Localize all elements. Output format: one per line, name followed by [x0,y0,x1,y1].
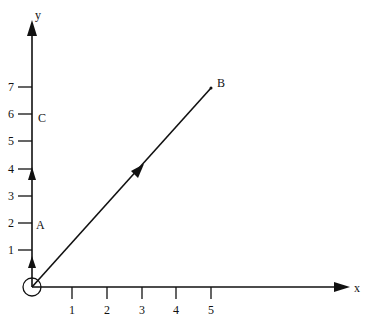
y-tick-label: 7 [8,80,14,94]
x-ticks [72,287,211,299]
coordinate-diagram: x y 1 2 3 4 5 1 2 3 4 5 6 7 B C A [0,0,367,330]
x-tick-label: 3 [139,303,145,317]
x-tick-label: 1 [69,303,75,317]
x-axis-label: x [354,281,360,295]
y-tick-label: 2 [8,216,14,230]
vector-OB [32,88,211,287]
y-axis-label: y [35,8,41,22]
y-tick-label: 4 [8,162,14,176]
point-A-label: A [36,218,45,232]
y-tick-label: 3 [8,189,14,203]
y-tick-label: 5 [8,134,14,148]
y-ticks [18,87,32,250]
x-tick-label: 2 [104,303,110,317]
x-tick-label: 4 [173,303,179,317]
y-axis-arrow-icon [27,20,37,36]
y-path-arrow-icon [28,256,36,268]
y-tick-label: 1 [8,243,14,257]
x-tick-label: 5 [208,303,214,317]
point-B-label: B [217,76,225,90]
point-B-marker [210,87,213,90]
point-C-label: C [38,111,46,125]
x-axis-arrow-icon [334,282,350,292]
y-tick-label: 6 [8,107,14,121]
